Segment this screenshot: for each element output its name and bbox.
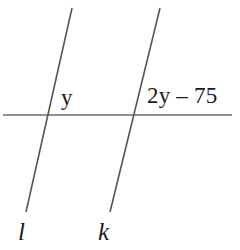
line-label-l: l	[18, 219, 25, 244]
angle-label-expression: 2y – 75	[147, 84, 217, 107]
diagram-background	[0, 0, 240, 250]
line-label-k: k	[98, 219, 109, 244]
geometry-diagram: y 2y – 75 l k	[0, 0, 240, 250]
diagram-canvas	[0, 0, 240, 250]
angle-label-y: y	[61, 86, 73, 109]
